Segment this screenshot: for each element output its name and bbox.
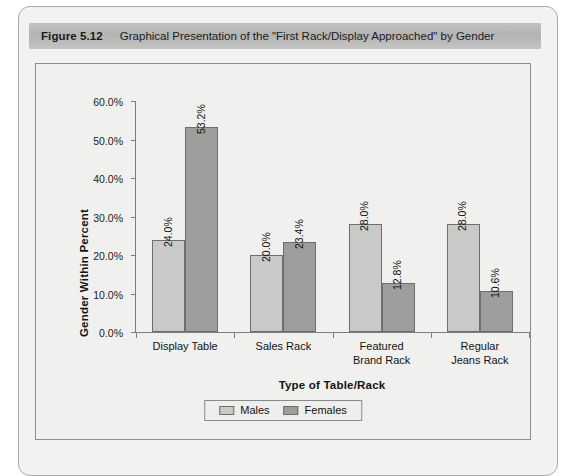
bar-males[interactable]: 28.0% <box>349 224 382 332</box>
x-axis-category-label: Sales Rack <box>234 339 332 353</box>
x-axis-category-line: Brand Rack <box>333 353 431 367</box>
bar-males[interactable]: 28.0% <box>447 224 480 332</box>
figure-card: Figure 5.12 Graphical Presentation of th… <box>18 6 558 476</box>
x-axis-category-label: FeaturedBrand Rack <box>333 339 431 367</box>
y-axis-tick: 30.0% <box>131 217 136 218</box>
legend-label-females: Females <box>305 404 347 416</box>
legend-item-females[interactable]: Females <box>284 404 347 416</box>
x-axis-tick <box>234 332 235 338</box>
legend-swatch-females-icon <box>284 406 299 415</box>
bar-value-label: 10.6% <box>489 268 501 298</box>
bar-value-label: 53.2% <box>194 104 206 134</box>
legend-item-males[interactable]: Males <box>219 404 269 416</box>
x-axis-category-label: RegularJeans Rack <box>431 339 529 367</box>
y-axis-tick-label: 60.0% <box>93 96 123 108</box>
figure-caption-text: Graphical Presentation of the "First Rac… <box>120 30 494 42</box>
x-axis-title: Type of Table/Rack <box>135 379 529 391</box>
y-axis-tick-label: 10.0% <box>93 289 123 301</box>
chart-legend: Males Females <box>204 400 362 421</box>
bar-value-label: 28.0% <box>358 201 370 231</box>
x-axis-tick <box>136 332 137 338</box>
figure-number-label: Figure 5.12 <box>41 30 103 42</box>
x-axis-category-label: Display Table <box>136 339 234 353</box>
bar-males[interactable]: 24.0% <box>152 240 185 332</box>
chart-container: Gender Within Percent 0.0%10.0%20.0%30.0… <box>35 63 531 440</box>
y-axis-tick: 60.0% <box>131 101 136 102</box>
bar-value-label: 24.0% <box>161 217 173 247</box>
y-axis-title: Gender Within Percent <box>76 157 92 389</box>
bar-females[interactable]: 23.4% <box>283 242 316 332</box>
y-axis-tick: 40.0% <box>131 178 136 179</box>
x-axis-tick <box>431 332 432 338</box>
x-axis-category-line: Sales Rack <box>234 339 332 353</box>
x-axis-category-line: Featured <box>333 339 431 353</box>
x-axis-category-line: Display Table <box>136 339 234 353</box>
y-axis-tick: 20.0% <box>131 255 136 256</box>
y-axis-tick-label: 0.0% <box>99 327 123 339</box>
y-axis-tick-label: 50.0% <box>93 135 123 147</box>
bar-value-label: 12.8% <box>391 260 403 290</box>
bar-value-label: 23.4% <box>292 219 304 249</box>
bar-females[interactable]: 10.6% <box>480 291 513 332</box>
y-axis-tick: 10.0% <box>131 294 136 295</box>
bar-females[interactable]: 12.8% <box>382 283 415 332</box>
legend-label-males: Males <box>240 404 269 416</box>
x-axis-tick <box>529 332 530 338</box>
bar-females[interactable]: 53.2% <box>185 127 218 332</box>
y-axis-title-text: Gender Within Percent <box>78 209 90 337</box>
legend-swatch-males-icon <box>219 406 234 415</box>
bar-value-label: 28.0% <box>456 201 468 231</box>
x-axis-category-line: Jeans Rack <box>431 353 529 367</box>
y-axis-tick-label: 30.0% <box>93 212 123 224</box>
y-axis-tick-label: 40.0% <box>93 173 123 185</box>
x-axis-tick <box>333 332 334 338</box>
y-axis-tick: 50.0% <box>131 140 136 141</box>
x-axis-category-line: Regular <box>431 339 529 353</box>
bar-males[interactable]: 20.0% <box>250 255 283 332</box>
bar-value-label: 20.0% <box>259 232 271 262</box>
figure-caption-band: Figure 5.12 Graphical Presentation of th… <box>29 23 541 49</box>
y-axis-tick-label: 20.0% <box>93 250 123 262</box>
plot-area: 0.0%10.0%20.0%30.0%40.0%50.0%60.0%24.0%5… <box>135 101 529 333</box>
